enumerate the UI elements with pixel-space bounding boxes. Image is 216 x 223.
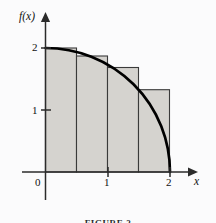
rectangle-4 — [139, 90, 170, 172]
x-tick-label-1: 1 — [104, 177, 110, 188]
x-tick-label-0: 0 — [35, 177, 41, 188]
x-tick-label-2: 2 — [166, 177, 172, 188]
x-axis-label: x — [194, 176, 199, 188]
figure-caption: FIGURE 2 — [0, 218, 216, 223]
rectangle-2 — [77, 56, 108, 172]
y-tick-label-1: 1 — [32, 105, 38, 116]
y-axis-label: f(x) — [19, 11, 35, 23]
riemann-sum-figure: f(x) x 2 1 0 1 2 FIGURE 2 — [0, 0, 216, 223]
y-tick-label-2: 2 — [32, 42, 38, 53]
rectangles-group — [46, 48, 170, 172]
y-axis-arrowhead — [41, 12, 50, 22]
